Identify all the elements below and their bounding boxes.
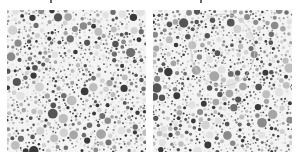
dot (197, 54, 202, 59)
dot (250, 115, 252, 117)
dot (287, 43, 289, 45)
dot (221, 149, 223, 151)
dot (130, 64, 132, 66)
dot (155, 139, 157, 141)
dot (66, 106, 69, 109)
dot (260, 112, 262, 114)
dot (145, 148, 146, 150)
dot (42, 104, 44, 106)
dot (166, 93, 168, 95)
dot (210, 18, 215, 23)
dot (243, 148, 245, 150)
dot (29, 29, 32, 32)
dot (139, 19, 141, 21)
dot (128, 44, 130, 46)
dot (75, 118, 78, 121)
dot (289, 41, 292, 45)
dot (285, 134, 287, 136)
dot (228, 107, 230, 109)
dot (24, 26, 26, 28)
dot (64, 73, 66, 75)
dot (189, 113, 191, 115)
dot (223, 30, 225, 32)
dot (281, 103, 283, 105)
dot (38, 104, 40, 106)
dot (257, 10, 259, 12)
dot (223, 131, 232, 140)
dot (277, 41, 279, 43)
dot (116, 33, 119, 36)
dot (109, 92, 111, 94)
dot (54, 13, 62, 21)
dot (97, 68, 100, 71)
dot (208, 10, 211, 11)
dot (171, 97, 173, 99)
dot (274, 55, 278, 59)
dot (38, 43, 40, 45)
dot (21, 118, 24, 121)
dot (157, 14, 160, 17)
dot (223, 92, 225, 94)
dot (219, 98, 221, 100)
dot (82, 119, 84, 121)
dot (227, 19, 235, 27)
dot (251, 39, 253, 41)
dot (276, 105, 278, 107)
dot (137, 37, 142, 42)
dot (106, 66, 108, 68)
dot (218, 60, 220, 62)
dot (199, 39, 202, 42)
dot (153, 127, 156, 130)
dot (190, 65, 192, 67)
dot (252, 129, 254, 131)
dot (137, 145, 139, 147)
dot (42, 143, 46, 147)
dot (188, 75, 190, 77)
dot (211, 14, 213, 16)
dot (105, 109, 107, 111)
dot (288, 45, 290, 47)
dot (57, 40, 61, 44)
dot (125, 60, 128, 63)
dot (226, 90, 234, 98)
dot (35, 60, 37, 62)
dot (284, 137, 286, 139)
annotation-arc (191, 14, 255, 86)
dot (266, 49, 268, 51)
dot (211, 110, 213, 112)
dot (251, 43, 253, 45)
dot (159, 95, 165, 101)
dot (105, 39, 107, 41)
dot (255, 32, 257, 34)
dot (223, 56, 225, 58)
dot (10, 136, 14, 140)
dot (126, 48, 135, 57)
dot (143, 120, 145, 122)
dot (134, 143, 136, 145)
dot (40, 28, 45, 33)
dot (232, 120, 234, 122)
dot (231, 116, 233, 118)
dot (49, 68, 51, 70)
dot (111, 98, 113, 100)
dot (278, 84, 281, 87)
dot (129, 122, 132, 125)
dot (239, 148, 241, 150)
dot (262, 70, 268, 76)
dot (182, 34, 184, 36)
dot (264, 40, 267, 43)
dot (131, 102, 133, 104)
dot (270, 127, 274, 131)
dot (86, 13, 88, 15)
dot (78, 79, 80, 81)
dot (283, 72, 285, 74)
dot (236, 41, 238, 43)
dot (222, 96, 227, 101)
dot (114, 121, 116, 123)
dot (40, 37, 42, 39)
dot (155, 72, 157, 74)
dot (206, 131, 213, 138)
dot (203, 13, 205, 15)
dot (27, 129, 29, 131)
dot (49, 77, 51, 79)
